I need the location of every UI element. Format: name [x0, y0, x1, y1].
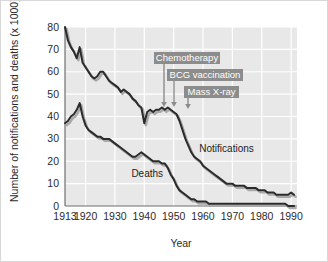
y-axis-tick-labels: 01020304050607080: [47, 21, 59, 212]
x-tick-label: 1960: [191, 210, 215, 222]
x-tick-label: 1990: [279, 210, 303, 222]
y-tick-label: 60: [47, 65, 59, 77]
y-axis-title: Number of notifications and deaths (x 10…: [8, 1, 20, 202]
x-tick-label: 1980: [250, 210, 274, 222]
series-label-notifications: Notifications: [199, 143, 253, 154]
tuberculosis-line-chart: 01020304050607080 1913192019301940195019…: [1, 1, 328, 262]
y-tick-label: 30: [47, 132, 59, 144]
y-tick-label: 50: [47, 88, 59, 100]
y-tick-label: 80: [47, 21, 59, 33]
x-tick-label: 1930: [103, 210, 127, 222]
y-tick-label: 20: [47, 155, 59, 167]
x-tick-label: 1920: [74, 210, 98, 222]
annotation-label: Chemotherapy: [156, 52, 219, 63]
y-tick-label: 70: [47, 43, 59, 55]
x-axis-title: Year: [170, 237, 192, 249]
annotation-label: Mass X-ray: [187, 86, 235, 97]
y-tick-label: 10: [47, 177, 59, 189]
figure-container: 01020304050607080 1913192019301940195019…: [0, 0, 328, 262]
x-tick-label: 1950: [162, 210, 186, 222]
x-tick-label: 1970: [221, 210, 245, 222]
y-tick-label: 40: [47, 110, 59, 122]
annotation-label: BCG vaccination: [170, 69, 241, 80]
x-axis-tick-labels: 191319201930194019501960197019801990: [53, 210, 303, 222]
series-label-deaths: Deaths: [131, 168, 163, 179]
x-tick-label: 1940: [133, 210, 157, 222]
